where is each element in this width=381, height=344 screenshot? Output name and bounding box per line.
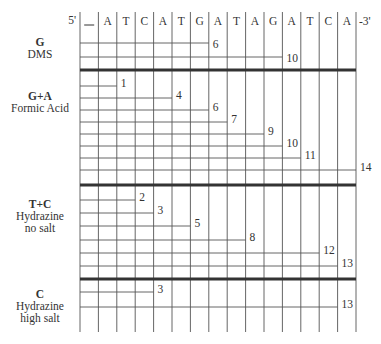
base-T: T [233,15,240,27]
lane-label-g: G DMS [0,36,80,60]
reaction-name: G [0,36,80,48]
reagent-name: DMS [28,48,53,60]
fragment-length-label: 8 [250,231,256,243]
base-G: G [195,15,203,27]
base-G: G [269,15,277,27]
fragment-length-label: 10 [286,137,298,149]
fragment-length-label: 5 [194,217,200,229]
fragment-length-label: 11 [305,149,316,161]
reaction-name: C [0,288,80,300]
fragment-length-label: 2 [139,191,145,203]
five-prime-label: 5' [68,14,76,26]
base-A: A [251,15,260,27]
reaction-name: G+A [0,90,80,102]
reaction-name: T+C [0,198,80,210]
fragment-length-label: 14 [360,161,372,173]
base-A: A [103,15,112,27]
fragment-length-label: 3 [158,283,164,295]
fragment-length-label: 9 [268,125,274,137]
fragment-length-label: 13 [342,257,354,269]
reagent-name: Hydrazine [0,300,80,312]
fragment-length-label: 10 [286,52,298,64]
base-A: A [287,15,296,27]
base-T: T [306,15,313,27]
reagent-name: Hydrazine [0,210,80,222]
reagent-name: Formic Acid [11,102,69,114]
base-C: C [141,15,149,27]
fragment-length-label: 6 [213,38,219,50]
fragment-length-label: 7 [231,113,237,125]
lane-label-c: C Hydrazine high salt [0,288,80,324]
fragment-length-label: 4 [176,89,182,101]
base-C: C [325,15,333,27]
base-T: T [178,15,185,27]
base-A: A [214,15,223,27]
lane-label-ga: G+A Formic Acid [0,90,80,114]
reagent-condition: high salt [0,312,80,324]
base-T: T [122,15,129,27]
base-A: A [343,15,352,27]
fragment-length-label: 13 [342,298,354,310]
fragment-length-label: 3 [158,204,164,216]
fragment-length-label: 6 [213,101,219,113]
fragment-length-label: 12 [323,244,335,256]
fragment-length-label: 1 [121,77,127,89]
base-A: A [159,15,168,27]
three-prime-label: -3' [359,15,371,27]
reagent-condition: no salt [0,222,80,234]
lane-label-tc: T+C Hydrazine no salt [0,198,80,234]
